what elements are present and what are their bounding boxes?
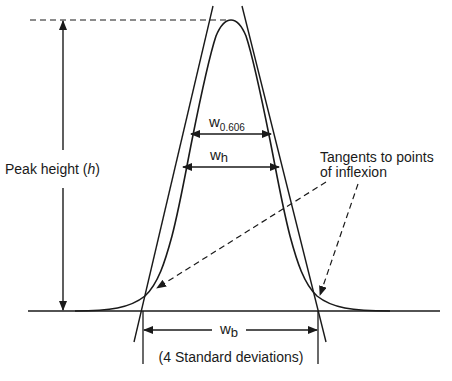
wh-label: wh [209, 146, 228, 165]
wb-label: wb [219, 320, 238, 340]
tangents-label: Tangents to points of inflexion [320, 149, 438, 180]
std-dev-label: (4 Standard deviations) [159, 349, 304, 365]
peak-height-label: Peak height (h) [5, 161, 100, 177]
peak-width-diagram: Peak height (h) w0.606 wh Tangents to po… [0, 0, 452, 381]
w0606-label: w0.606 [208, 113, 245, 133]
right-tangent-line [242, 6, 326, 342]
tangent-pointer-right [320, 184, 358, 295]
left-tangent-line [134, 6, 213, 342]
tangent-pointer-left [157, 182, 326, 288]
